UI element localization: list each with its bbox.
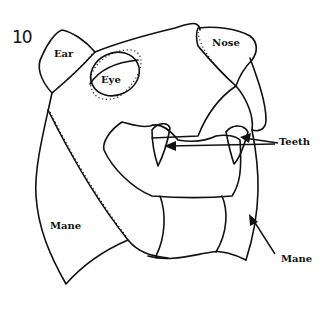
- nose-bridge-left: [236, 86, 252, 130]
- label-eye: Eye: [101, 75, 121, 85]
- diagram-lines: [0, 0, 328, 312]
- teeth-arrow-left: [168, 144, 275, 146]
- label-ear: Ear: [54, 49, 73, 59]
- label-mane-left: Mane: [50, 221, 81, 231]
- label-teeth: Teeth: [279, 137, 310, 147]
- mane-right-outline: [246, 130, 258, 260]
- jaw-band-left: [156, 196, 164, 256]
- jaw-band-right: [216, 196, 226, 252]
- jaw-band-bottom: [148, 251, 246, 260]
- muzzle-upper: [152, 86, 236, 138]
- mane-arrow: [252, 218, 275, 254]
- label-nose: Nose: [212, 38, 240, 48]
- ear-outline: [39, 30, 95, 93]
- mane-left-outline: [36, 93, 128, 284]
- cheek-line: [48, 110, 168, 258]
- label-mane-right: Mane: [281, 254, 312, 264]
- lion-mask-diagram: 10 Ear Eye Nose Teeth Mane Mane: [0, 0, 328, 312]
- head-top-outline: [95, 23, 200, 52]
- mouth-outline: [104, 122, 241, 198]
- figure-number: 10: [12, 29, 32, 46]
